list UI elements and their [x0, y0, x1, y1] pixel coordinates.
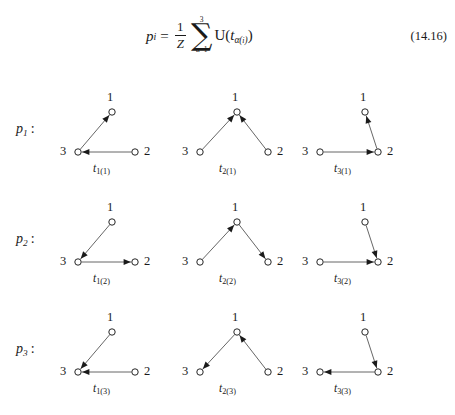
edge-3-to-1: [203, 225, 234, 259]
node-2: [265, 369, 271, 375]
node-2: [375, 149, 381, 155]
node-1: [109, 219, 115, 225]
diagram-label: t3(3): [334, 383, 351, 397]
graph-diagram-t1(2): 132t1(2): [55, 195, 185, 305]
node-3-label: 3: [182, 365, 188, 378]
equation-number: (14.16): [411, 12, 447, 60]
equation-lhs-subscript: i: [154, 31, 157, 42]
node-2-label: 2: [277, 365, 283, 378]
node-1-label: 1: [232, 201, 238, 214]
diagram-label: t3(1): [334, 163, 351, 177]
node-1-label: 1: [360, 311, 366, 324]
node-2: [265, 259, 271, 265]
diagram-label: t1(3): [93, 383, 110, 397]
diagram-label: t2(1): [219, 163, 236, 177]
row-label-subscript: 1: [23, 128, 28, 138]
equation-lhs-variable: p: [146, 28, 154, 45]
graph-diagram-t3(1): 132t3(1): [312, 85, 442, 195]
edge-1-to-2: [239, 225, 265, 259]
fraction-denominator: Z: [175, 37, 186, 50]
equation-fraction: 1 Z: [175, 20, 186, 50]
equation-block: pi = 1 Z 3 ∑ α=1 U(tα(i)) (14.16): [0, 12, 455, 60]
node-1-label: 1: [107, 201, 113, 214]
diagram-row-p1: p1:132t1(1)132t2(1)132t3(1): [0, 85, 455, 195]
node-2: [132, 369, 138, 375]
node-3-label: 3: [60, 255, 66, 268]
node-2-label: 2: [144, 365, 150, 378]
node-2-label: 2: [387, 365, 393, 378]
node-3: [317, 369, 323, 375]
row-label-colon: :: [31, 231, 35, 246]
node-3: [317, 259, 323, 265]
node-1: [109, 329, 115, 335]
node-2-label: 2: [277, 145, 283, 158]
graph-diagram-t1(1): 132t1(1): [55, 85, 185, 195]
diagram-label-subscript: 1(3): [96, 387, 110, 396]
node-1: [362, 109, 368, 115]
edge-2-to-3: [82, 369, 131, 375]
summand-open: U(: [214, 27, 230, 43]
diagram-label-subscript: 1(2): [96, 277, 110, 286]
node-2-label: 2: [277, 255, 283, 268]
node-1: [362, 329, 368, 335]
node-1: [234, 109, 240, 115]
diagram-label: t1(1): [93, 163, 110, 177]
node-3: [197, 369, 203, 375]
node-2: [265, 149, 271, 155]
node-3-label: 3: [60, 145, 66, 158]
node-3: [75, 369, 81, 375]
node-2: [132, 259, 138, 265]
node-3-label: 3: [182, 145, 188, 158]
diagram-row-p2: p2:132t1(2)132t2(2)132t3(2): [0, 195, 455, 305]
node-2-label: 2: [144, 255, 150, 268]
edge-3-to-1: [81, 115, 110, 149]
node-3-label: 3: [60, 365, 66, 378]
diagram-label: t2(3): [219, 383, 236, 397]
edge-2-to-3: [82, 149, 131, 155]
node-1: [362, 219, 368, 225]
node-2: [132, 149, 138, 155]
row-label-subscript: 2: [23, 238, 28, 248]
node-2: [375, 259, 381, 265]
diagram-label-subscript: 2(1): [222, 167, 236, 176]
node-3: [75, 149, 81, 155]
diagram-label-subscript: 3(2): [337, 277, 351, 286]
graph-diagram-t3(2): 132t3(2): [312, 195, 442, 305]
node-2: [375, 369, 381, 375]
node-1-label: 1: [360, 91, 366, 104]
equation-formula: pi = 1 Z 3 ∑ α=1 U(tα(i)): [146, 12, 253, 60]
summation-operator: 3 ∑ α=1: [191, 16, 212, 54]
row-label-p1: p1:: [16, 121, 35, 138]
equation-equals-sign: =: [160, 28, 168, 45]
summation-lower-limit: α=1: [196, 46, 208, 54]
diagram-label-subscript: 3(3): [337, 387, 351, 396]
node-3-label: 3: [302, 255, 308, 268]
edge-3-to-1: [203, 115, 234, 149]
row-label-variable: p: [16, 121, 23, 136]
row-label-p2: p2:: [16, 231, 35, 248]
node-3-label: 3: [302, 145, 308, 158]
node-1-label: 1: [232, 311, 238, 324]
edge-3-to-2: [324, 259, 374, 265]
diagram-label-subscript: 3(1): [337, 167, 351, 176]
edge-1-to-3: [81, 335, 110, 369]
node-1-label: 1: [232, 91, 238, 104]
graph-diagram-t2(2): 132t2(2): [185, 195, 315, 305]
summand-subscript: α(i): [234, 35, 247, 45]
node-3: [197, 149, 203, 155]
node-1: [234, 329, 240, 335]
node-1-label: 1: [107, 311, 113, 324]
node-2-label: 2: [387, 145, 393, 158]
equation-summand: U(tα(i)): [214, 27, 252, 45]
node-1: [234, 219, 240, 225]
row-label-p3: p3:: [16, 341, 35, 358]
edge-1-to-2: [366, 226, 377, 258]
node-3: [75, 259, 81, 265]
node-3-label: 3: [182, 255, 188, 268]
node-3: [317, 149, 323, 155]
graph-diagram-t1(3): 132t1(3): [55, 305, 185, 415]
node-1: [109, 109, 115, 115]
sigma-icon: ∑: [191, 23, 212, 48]
graph-diagram-t2(1): 132t2(1): [185, 85, 315, 195]
diagram-label-subscript: 2(3): [222, 387, 236, 396]
